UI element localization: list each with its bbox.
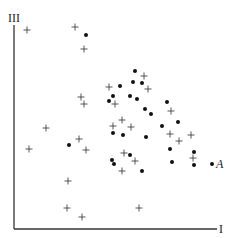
dot-marker — [160, 124, 164, 128]
plus-marker — [119, 168, 126, 175]
plus-marker — [81, 101, 88, 108]
dot-marker — [118, 84, 122, 88]
plus-marker — [76, 136, 83, 143]
dot-marker — [67, 143, 71, 147]
dot-marker — [165, 100, 169, 104]
plus-marker — [121, 150, 128, 157]
dot-marker — [192, 163, 196, 167]
dot-marker — [121, 133, 125, 137]
plus-marker — [112, 101, 119, 108]
dot-marker — [168, 147, 172, 151]
dot-marker — [135, 97, 139, 101]
dot-marker — [140, 169, 144, 173]
plus-marker — [190, 155, 197, 162]
dot-marker — [110, 158, 114, 162]
dot-marker — [111, 131, 115, 135]
plus-marker — [119, 117, 126, 124]
plus-marker — [43, 125, 50, 132]
plus-marker — [128, 124, 135, 131]
y-axis-label: III — [8, 12, 20, 24]
scatter-plot — [0, 0, 226, 238]
plus-marker — [110, 123, 117, 130]
plus-marker — [64, 205, 71, 212]
dot-marker — [170, 160, 174, 164]
plus-marker — [145, 86, 152, 93]
plus-marker — [141, 73, 148, 80]
dot-marker — [140, 81, 144, 85]
dot-marker — [128, 153, 132, 157]
plus-marker — [26, 146, 33, 153]
plus-marker — [24, 27, 31, 34]
plus-marker — [81, 46, 88, 53]
plus-markers — [24, 24, 197, 221]
plus-marker — [72, 24, 79, 31]
dot-marker — [192, 150, 196, 154]
plus-marker — [132, 158, 139, 165]
plus-marker — [106, 84, 113, 91]
plus-marker — [176, 138, 183, 145]
dot-marker — [144, 135, 148, 139]
dot-marker — [128, 94, 132, 98]
dot-marker — [112, 162, 116, 166]
plus-marker — [79, 214, 86, 221]
dot-markers — [67, 33, 214, 173]
point-a-label: A — [216, 158, 223, 170]
plus-marker — [65, 178, 72, 185]
plus-marker — [168, 108, 175, 115]
dot-marker — [111, 94, 115, 98]
dot-marker — [149, 112, 153, 116]
x-axis-label: I — [219, 223, 223, 235]
dot-marker — [84, 33, 88, 37]
dot-marker — [210, 162, 214, 166]
plus-marker — [188, 132, 195, 139]
dot-marker — [133, 69, 137, 73]
plus-marker — [167, 131, 174, 138]
plus-marker — [136, 205, 143, 212]
dot-marker — [143, 107, 147, 111]
dot-marker — [131, 80, 135, 84]
plus-marker — [78, 94, 85, 101]
dot-marker — [176, 120, 180, 124]
plus-marker — [83, 147, 90, 154]
dot-marker — [107, 99, 111, 103]
